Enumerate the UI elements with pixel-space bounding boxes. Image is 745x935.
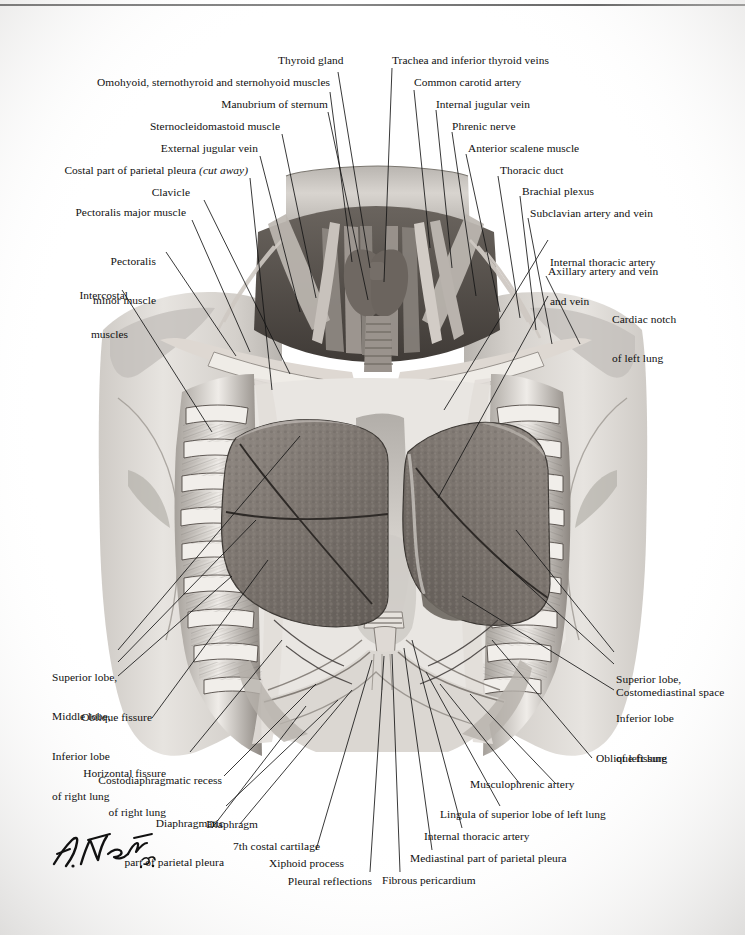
label-costodiaphragmatic-recess: Costodiaphragmatic recess [0, 774, 222, 787]
label-oblique-fissure-left: Oblique fissure [596, 752, 667, 765]
label-fibrous-pericardium: Fibrous pericardium [382, 874, 476, 887]
label-pectoralis-major-muscle: Pectoralis major muscle [0, 206, 186, 219]
label-internal-thoracic-artery: Internal thoracic artery [424, 830, 530, 843]
label-left-lung-inferior-lobe: Inferior lobe [616, 712, 681, 725]
label-sternocleidomastoid-muscle: Sternocleidomastoid muscle [0, 120, 280, 133]
label-anterior-scalene-muscle: Anterior scalene muscle [468, 142, 579, 155]
label-trachea-and-inferior-thyroid-veins: Trachea and inferior thyroid veins [392, 54, 549, 67]
label-intercostal-line2: muscles [0, 328, 128, 341]
label-left-lung-superior-lobe: Superior lobe, [616, 673, 681, 686]
label-oblique-fissure-right: Oblique fissure [0, 711, 152, 724]
label-subclavian-artery-and-vein: Subclavian artery and vein [530, 207, 653, 220]
label-internal-jugular-vein: Internal jugular vein [436, 98, 530, 111]
label-manubrium-of-sternum: Manubrium of sternum [0, 98, 328, 111]
label-clavicle: Clavicle [0, 186, 190, 199]
label-cardiac-notch-of-left-lung: Cardiac notch of left lung [612, 286, 676, 392]
label-cardiac-notch-line2: of left lung [612, 352, 676, 365]
label-mediastinal-part-of-parietal-pleura: Mediastinal part of parietal pleura [410, 852, 567, 865]
label-musculophrenic-artery: Musculophrenic artery [470, 778, 574, 791]
label-costomediastinal-space: Costomediastinal space [616, 686, 724, 699]
label-cardiac-notch-line1: Cardiac notch [612, 313, 676, 326]
label-common-carotid-artery: Common carotid artery [414, 76, 521, 89]
label-lingula-of-superior-lobe-of-left-lung: Lingula of superior lobe of left lung [440, 808, 606, 821]
label-costal-part-of-parietal-pleura: Costal part of parietal pleura (cut away… [0, 164, 248, 177]
label-intercostal-line1: Intercostal [0, 289, 128, 302]
label-costal-part-of-parietal-pleura-note: (cut away) [199, 164, 248, 176]
label-brachial-plexus: Brachial plexus [522, 185, 594, 198]
label-omohyoid-sternothyroid-sternohyoid-muscles: Omohyoid, sternothyroid and sternohyoid … [0, 76, 330, 89]
label-axillary-artery-and-vein: Axillary artery and vein [548, 265, 658, 278]
label-thyroid-gland: Thyroid gland [278, 54, 344, 67]
label-external-jugular-vein: External jugular vein [0, 142, 258, 155]
label-right-lung-superior-lobe: Superior lobe, [52, 671, 117, 684]
label-lobes-of-left-lung: Superior lobe, Inferior lobe of left lun… [616, 646, 681, 792]
label-intercostal-muscles: Intercostal muscles [0, 262, 128, 368]
label-costal-part-of-parietal-pleura-main: Costal part of parietal pleura [64, 164, 199, 176]
anatomy-plate-page: Thyroid gland Omohyoid, sternothyroid an… [0, 0, 745, 935]
label-phrenic-nerve: Phrenic nerve [452, 120, 516, 133]
label-thoracic-duct: Thoracic duct [500, 164, 564, 177]
artist-signature [48, 824, 160, 880]
